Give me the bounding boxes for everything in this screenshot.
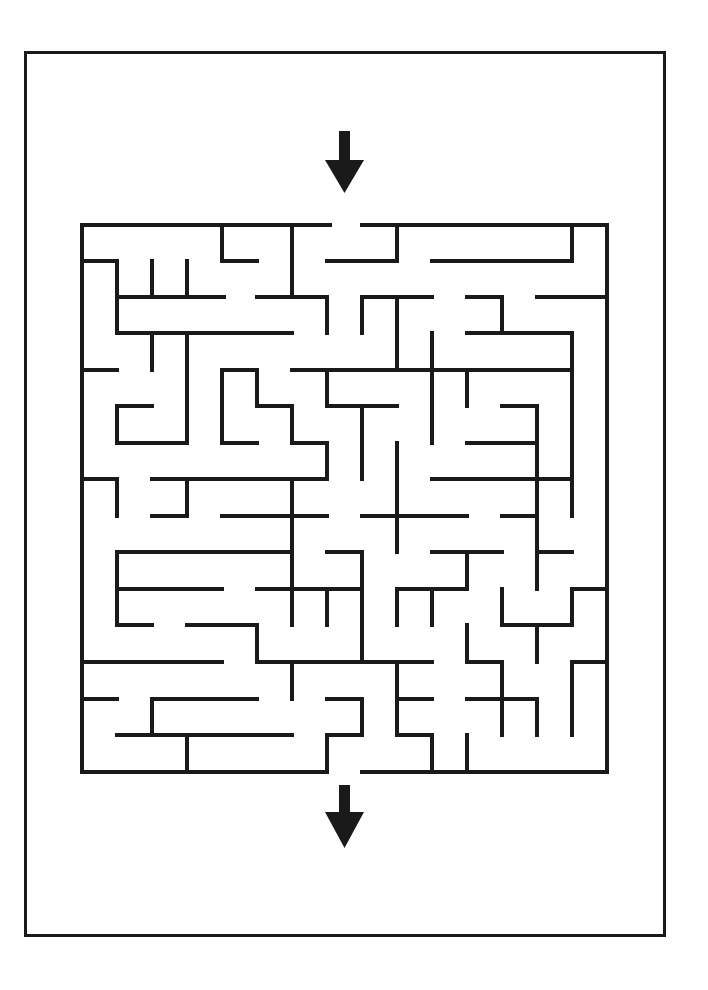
maze	[0, 0, 708, 990]
maze-walls	[82, 225, 607, 772]
exit-arrow-icon	[325, 785, 364, 848]
entrance-arrow-icon	[325, 131, 364, 193]
